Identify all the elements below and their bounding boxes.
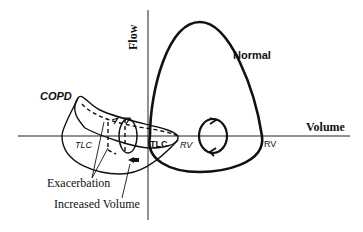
flow-volume-diagram: Flow Volume Normal TLC RV COPD TLC RV Ex…: [0, 0, 363, 232]
copd-tlc-label: TLC: [75, 140, 93, 150]
volume-axis-label: Volume: [306, 120, 346, 134]
increased-volume-pointer: [122, 164, 130, 198]
normal-label: Normal: [233, 49, 271, 61]
flow-axis-label: Flow: [126, 24, 140, 50]
copd-rv-label: RV: [180, 140, 193, 150]
increased-volume-arrow-icon: [128, 157, 134, 163]
exacerbation-label: Exacerbation: [47, 176, 110, 190]
increased-volume-arrow-tail: [134, 158, 139, 162]
increased-volume-label: Increased Volume: [54, 197, 140, 211]
normal-arrow-top-icon: [210, 118, 216, 124]
exacerbation-pointer-1: [92, 122, 104, 178]
normal-rv-label: RV: [264, 139, 276, 149]
copd-label: COPD: [40, 90, 72, 102]
